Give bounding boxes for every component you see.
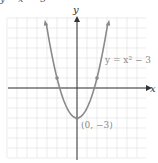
x-axis-label: x [150, 83, 156, 94]
curve-end-arrow-left-icon [44, 20, 48, 26]
marked-point [55, 76, 59, 80]
curve-end-arrow-right-icon [106, 20, 110, 26]
equation-label: y = x² − 3 [104, 55, 151, 65]
y-axis-label: y [72, 4, 79, 15]
y-axis-arrow-icon [74, 16, 80, 22]
vertex-label: (0, −3) [81, 120, 113, 130]
marked-point [75, 116, 79, 120]
marked-point [95, 76, 99, 80]
parabola-graph: x y y = x² − 3 (0, −3) [0, 0, 158, 163]
